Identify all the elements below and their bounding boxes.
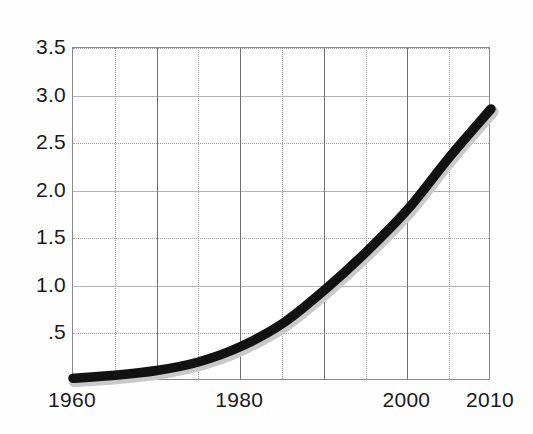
curve-shadow [75,112,493,381]
data-curve [73,48,491,381]
y-axis-tick-label: 3.0 [4,83,66,107]
y-axis-tick-label: 3.5 [4,35,66,59]
curve-line [73,109,491,378]
y-axis-tick-label: 1.0 [4,273,66,297]
chart-figure: 3.53.02.52.01.51.0.5 1960198020002010 [0,0,533,434]
y-axis-tick-label: 1.5 [4,225,66,249]
y-axis-tick-label: 2.0 [4,178,66,202]
x-axis-tick-label: 2000 [382,388,430,412]
plot-area [72,47,490,380]
x-axis-tick-label: 1980 [215,388,263,412]
x-axis-tick-label: 1960 [48,388,96,412]
y-axis-tick-label: .5 [4,320,66,344]
y-axis-tick-label: 2.5 [4,130,66,154]
x-axis-tick-label: 2010 [466,388,514,412]
y-axis-labels: 3.53.02.52.01.51.0.5 [0,0,66,434]
